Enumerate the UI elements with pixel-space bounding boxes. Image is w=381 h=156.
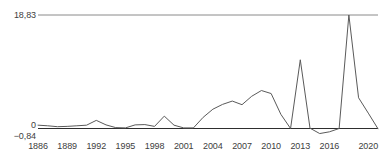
- y-axis-label-zero: 0: [31, 120, 36, 130]
- x-axis-tick-1992: 1992: [82, 141, 110, 151]
- x-axis-tick-2007: 2007: [228, 141, 256, 151]
- line-chart: 18,83 0 −0,84 18861889199219951998200120…: [0, 0, 381, 156]
- x-axis-tick-2004: 2004: [199, 141, 227, 151]
- x-axis-tick-2001: 2001: [170, 141, 198, 151]
- x-axis-tick-1995: 1995: [111, 141, 139, 151]
- x-axis-tick-2013: 2013: [286, 141, 314, 151]
- x-axis-tick-2016: 2016: [315, 141, 343, 151]
- data-series-line: [38, 15, 378, 134]
- y-axis-label-min: −0,84: [14, 131, 36, 141]
- y-axis-label-max: 18,83: [14, 10, 36, 20]
- x-axis-tick-2020: 2020: [354, 141, 381, 151]
- chart-plot-area: [0, 0, 381, 156]
- x-axis-tick-2010: 2010: [257, 141, 285, 151]
- x-axis-tick-1989: 1889: [53, 141, 81, 151]
- x-axis-tick-1998: 1998: [141, 141, 169, 151]
- x-axis-tick-1986: 1886: [24, 141, 52, 151]
